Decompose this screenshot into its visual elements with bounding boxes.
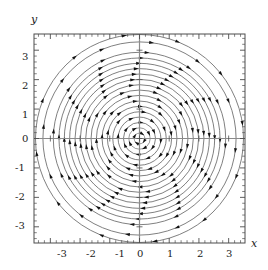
y-tick-label-2: 2: [22, 81, 28, 91]
x-tick-label--2: -2: [86, 249, 96, 259]
y-tick-label-0: 0: [22, 134, 28, 144]
y-tick-label--1: -1: [15, 163, 25, 173]
figure-canvas: y x -3 -2 -1 0 1 2 3 3 2 1 0 -1 -2 -3: [0, 0, 268, 270]
x-axis-label: x: [251, 238, 257, 249]
y-axis-label: y: [31, 14, 37, 25]
plot-background: [0, 0, 268, 270]
x-tick-label-3: 3: [226, 249, 232, 259]
phase-portrait-svg: [0, 0, 268, 270]
x-tick-label-0: 0: [137, 249, 143, 259]
x-tick-label--3: -3: [57, 249, 67, 259]
y-tick-label--2: -2: [15, 192, 25, 202]
x-tick-label-1: 1: [167, 249, 173, 259]
y-tick-label--3: -3: [15, 221, 25, 231]
y-tick-label-3: 3: [22, 52, 28, 62]
y-tick-label-1: 1: [22, 110, 28, 120]
x-tick-label-2: 2: [197, 249, 203, 259]
x-tick-label--1: -1: [115, 249, 125, 259]
